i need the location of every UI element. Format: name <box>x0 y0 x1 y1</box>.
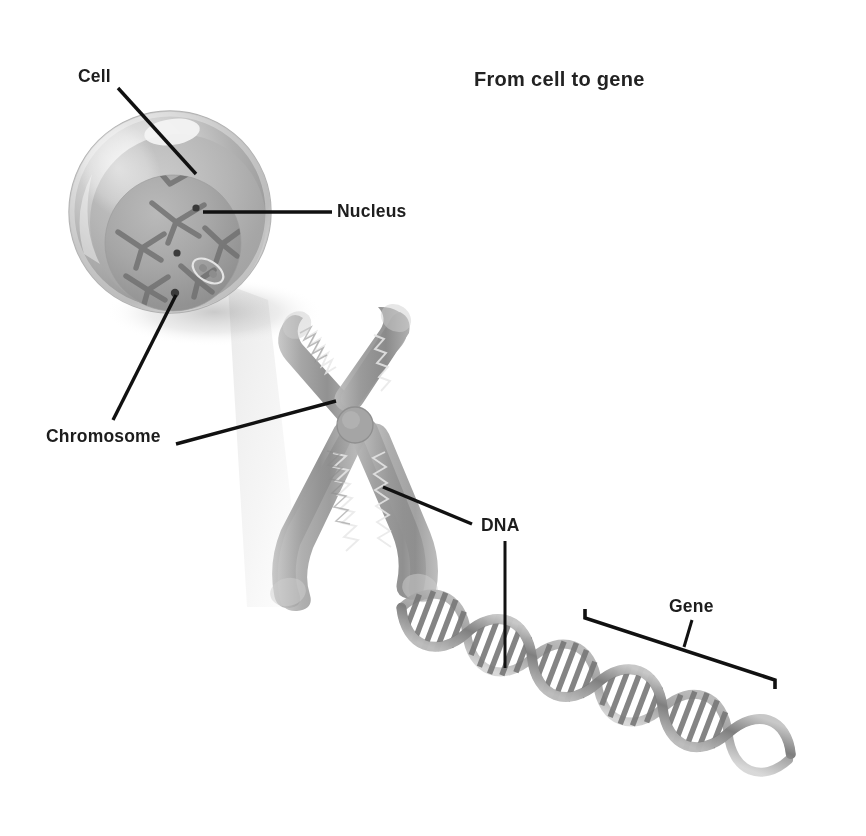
leader-line-dna-chromosome <box>383 487 472 524</box>
leader-lines-layer <box>0 0 866 836</box>
diagram-canvas: From cell to gene Cell Nucleus Chromosom… <box>0 0 866 836</box>
leader-line-cell <box>118 88 196 174</box>
diagram-title: From cell to gene <box>474 68 645 91</box>
gene-bracket <box>585 609 775 689</box>
label-dna: DNA <box>481 515 520 536</box>
leader-line-chromosome-cell <box>113 295 176 420</box>
label-chromosome: Chromosome <box>46 426 161 447</box>
leader-line-gene <box>684 620 692 647</box>
label-nucleus: Nucleus <box>337 201 406 222</box>
label-cell: Cell <box>78 66 111 87</box>
label-gene: Gene <box>669 596 714 617</box>
leader-line-chromosome-big <box>176 401 336 444</box>
